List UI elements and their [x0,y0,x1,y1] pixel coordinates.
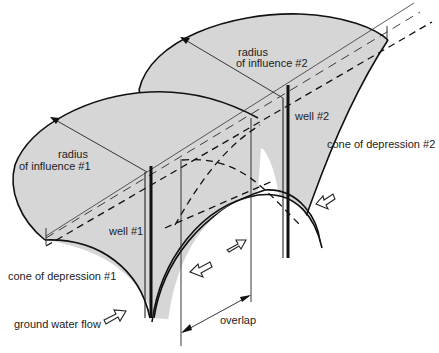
ground-water-flow-arrow-icon [104,310,126,324]
well-2-label: well #2 [294,110,329,122]
well-1-label: well #1 [108,225,143,237]
radius-2-label-line2: of influence #2 [236,57,308,69]
flow-arrow-cone2-icon [316,194,335,209]
cone-1-label: cone of depression #1 [8,270,116,282]
diagram-canvas: radius of influence #1 radius of influen… [0,0,439,353]
overlap-label: overlap [220,314,256,326]
radius-1-label-line2: of influence #1 [19,160,91,172]
cone-2-label: cone of depression #2 [327,138,435,150]
ground-water-flow-label: ground water flow [14,318,101,330]
radius-1-label-line1: radius [58,148,88,160]
